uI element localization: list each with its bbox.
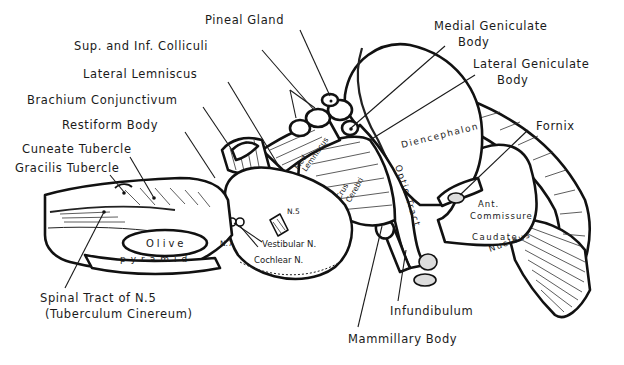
- label-lateral-geniculate-1: Lateral Geniculate: [473, 57, 589, 71]
- label-spinal-tract-2: (Tuberculum Cinereum): [45, 307, 193, 321]
- optic-nerve-stump: [414, 274, 436, 286]
- label-spinal-tract-1: Spinal Tract of N.5: [40, 291, 156, 305]
- label-n5: N.5: [287, 207, 300, 216]
- label-ant: Ant.: [478, 199, 499, 209]
- label-sup-inf-colliculi: Sup. and Inf. Colliculi: [74, 39, 208, 53]
- diagram-canvas: Pineal Gland Sup. and Inf. Colliculi Lat…: [0, 0, 624, 365]
- label-cochlear-n: Cochlear N.: [254, 255, 303, 265]
- brainstem-diagram: Pineal Gland Sup. and Inf. Colliculi Lat…: [0, 0, 624, 365]
- label-medial-geniculate-1: Medial Geniculate: [434, 19, 548, 33]
- label-gracilis-tubercle: Gracilis Tubercle: [15, 161, 119, 175]
- label-medial-geniculate-2: Body: [458, 35, 489, 49]
- label-lateral-geniculate-2: Body: [497, 73, 528, 87]
- label-mammillary-body: Mammillary Body: [348, 332, 457, 346]
- label-pyramid: pyramid: [120, 254, 192, 264]
- label-vestibular-n: Vestibular N.: [262, 239, 316, 249]
- label-n7: N.7: [220, 239, 233, 248]
- label-cuneate-tubercle: Cuneate Tubercle: [22, 142, 132, 156]
- label-infundibulum: Infundibulum: [390, 304, 473, 318]
- label-restiform-body: Restiform Body: [62, 118, 158, 132]
- optic-chiasm-stump: [419, 254, 437, 270]
- fornix-stump: [448, 193, 464, 203]
- label-olive: Olive: [146, 238, 187, 249]
- label-pineal-gland: Pineal Gland: [205, 13, 284, 27]
- label-fornix: Fornix: [536, 119, 575, 133]
- label-lateral-lemniscus: Lateral Lemniscus: [83, 67, 197, 81]
- label-commissure: Commissure: [470, 211, 533, 221]
- label-brachium-conjunctivum: Brachium Conjunctivum: [27, 93, 178, 107]
